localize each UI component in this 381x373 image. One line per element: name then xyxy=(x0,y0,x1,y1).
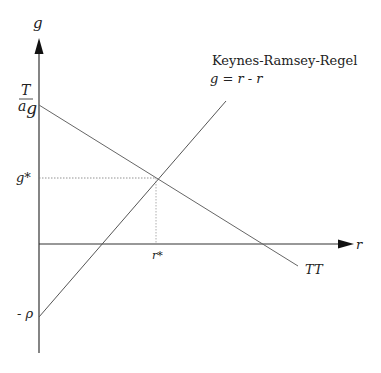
r-star-label: r* xyxy=(152,249,163,262)
g-star-label: g* xyxy=(16,170,31,185)
keynes-ramsey-title: Keynes-Ramsey-Regel xyxy=(212,53,357,68)
keynes-ramsey-equation: g = r - r xyxy=(210,71,263,86)
tt-intercept-denominator: ag xyxy=(18,98,37,118)
diagram-canvas: g r T ag g* r* - ρ Keynes-Ramsey-Regel g… xyxy=(0,0,381,373)
tt-line xyxy=(39,105,298,266)
x-axis-arrow-icon xyxy=(338,240,354,249)
keynes-ramsey-line xyxy=(39,101,226,317)
tt-label: TT xyxy=(305,262,324,277)
y-axis-label: g xyxy=(33,14,43,32)
minus-rho-label: - ρ xyxy=(17,306,34,321)
x-axis-label: r xyxy=(356,237,363,252)
y-axis-arrow-icon xyxy=(35,38,44,54)
tt-intercept-numerator: T xyxy=(21,82,32,98)
